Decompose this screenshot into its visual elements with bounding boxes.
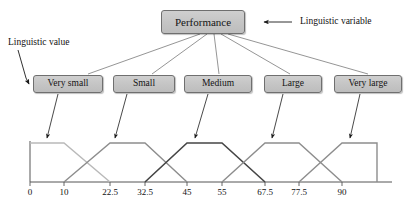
- node-performance-label: Performance: [175, 17, 231, 28]
- node-very-large[interactable]: Very large: [334, 75, 402, 93]
- linguistic-value-callout: Linguistic value: [8, 38, 69, 48]
- x-tick-label: 10: [60, 188, 69, 197]
- node-large[interactable]: Large: [264, 75, 322, 93]
- node-very-small-label: Very small: [48, 79, 89, 89]
- curve-small: [64, 143, 187, 182]
- x-axis-ticks: [30, 182, 342, 186]
- node-performance[interactable]: Performance: [161, 10, 245, 34]
- x-tick-label: 0: [28, 188, 33, 197]
- x-tick-label: 55: [218, 188, 227, 197]
- node-very-large-label: Very large: [348, 79, 387, 89]
- linguistic-variable-callout: Linguistic variable: [300, 17, 372, 27]
- node-medium-label: Medium: [202, 79, 234, 89]
- x-tick-label: 32.5: [137, 188, 153, 197]
- node-large-label: Large: [282, 79, 304, 89]
- node-small-label: Small: [133, 79, 155, 89]
- x-tick-label: 77.5: [291, 188, 307, 197]
- x-tick-label: 90: [338, 188, 347, 197]
- curve-very-large: [299, 143, 377, 182]
- x-tick-label: 67.5: [257, 188, 273, 197]
- node-very-small[interactable]: Very small: [33, 75, 103, 93]
- x-tick-label: 22.5: [102, 188, 118, 197]
- curve-large: [222, 143, 342, 182]
- x-tick-label: 45: [183, 188, 192, 197]
- curve-medium: [145, 143, 265, 182]
- node-small[interactable]: Small: [113, 75, 175, 93]
- node-medium[interactable]: Medium: [184, 75, 252, 93]
- figure-canvas: Performance Very small Small Medium Larg…: [0, 0, 407, 207]
